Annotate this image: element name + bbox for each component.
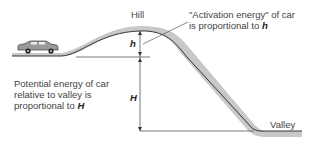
potential-line-1: Potential energy of car	[14, 78, 109, 89]
h-arrow-top	[138, 31, 142, 35]
potential-line-2: relative to valley is	[14, 89, 109, 100]
h-label: h	[130, 38, 136, 49]
activation-energy-annotation: "Activation energy" of car is proportion…	[189, 9, 295, 31]
potential-var: H	[77, 100, 84, 111]
activation-line-2-text: is proportional to	[189, 20, 262, 31]
H-arrow-bottom	[138, 127, 142, 131]
activation-line-2: is proportional to h	[189, 20, 295, 31]
potential-line-3: proportional to H	[14, 100, 109, 111]
potential-energy-annotation: Potential energy of car relative to vall…	[14, 78, 109, 111]
potential-line-3-text: proportional to	[14, 100, 77, 111]
car-icon	[18, 41, 58, 54]
H-arrow-top	[138, 58, 142, 62]
hill-label: Hill	[131, 9, 144, 20]
valley-label: Valley	[270, 119, 295, 130]
activation-var: h	[262, 20, 268, 31]
H-label: H	[130, 92, 137, 103]
h-arrow-bottom	[138, 52, 142, 56]
activation-line-1: "Activation energy" of car	[189, 9, 295, 20]
